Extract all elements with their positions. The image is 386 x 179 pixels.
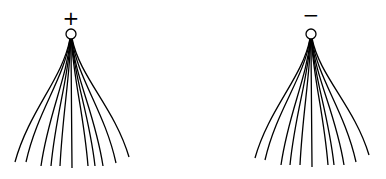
negative-charge-group bbox=[255, 29, 369, 167]
positive-charge-group bbox=[15, 29, 129, 168]
negative-charge-circle bbox=[306, 29, 316, 39]
field-line bbox=[312, 39, 369, 155]
field-lines-canvas bbox=[0, 0, 386, 179]
positive-charge-circle bbox=[66, 29, 76, 39]
positive-sign-label: + bbox=[63, 8, 80, 28]
field-line bbox=[311, 39, 312, 167]
field-line bbox=[26, 39, 70, 162]
field-line bbox=[265, 39, 310, 160]
negative-sign-label: − bbox=[303, 5, 320, 25]
field-line bbox=[72, 39, 129, 157]
field-line bbox=[71, 39, 72, 168]
